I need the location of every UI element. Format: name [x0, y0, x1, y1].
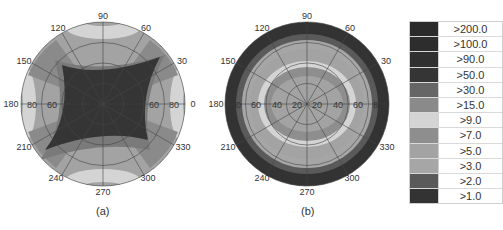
svg-text:150: 150 — [16, 56, 31, 66]
caption-b: (b) — [301, 205, 314, 217]
svg-text:90: 90 — [302, 11, 312, 21]
svg-text:40: 40 — [69, 100, 79, 110]
legend-item: >30.0 — [410, 83, 502, 98]
legend-label: >2.0 — [438, 174, 502, 188]
legend-label: >5.0 — [438, 144, 502, 158]
svg-text:60: 60 — [149, 100, 159, 110]
svg-text:150: 150 — [220, 56, 235, 66]
legend-label: >15.0 — [438, 98, 502, 112]
polar-plot-a: 90 60 30 0 330 300 270 240 210 180 150 1… — [0, 0, 200, 200]
legend-label: >7.0 — [438, 128, 502, 142]
legend-item: >15.0 — [410, 98, 502, 113]
svg-text:80: 80 — [169, 100, 179, 110]
svg-text:80: 80 — [231, 100, 241, 110]
legend-swatch — [410, 22, 438, 36]
svg-text:60: 60 — [47, 100, 57, 110]
legend-label: >90.0 — [438, 52, 502, 66]
caption-a: (a) — [96, 205, 109, 217]
svg-text:80: 80 — [373, 100, 383, 110]
legend-swatch — [410, 52, 438, 66]
svg-text:80: 80 — [27, 100, 37, 110]
legend-item: >7.0 — [410, 128, 502, 143]
legend-item: >5.0 — [410, 144, 502, 159]
svg-text:180: 180 — [208, 99, 223, 109]
svg-text:20: 20 — [292, 100, 302, 110]
svg-text:300: 300 — [344, 173, 359, 183]
svg-text:270: 270 — [95, 187, 110, 197]
legend-item: >100.0 — [410, 37, 502, 52]
legend-swatch — [410, 113, 438, 127]
legend-item: >9.0 — [410, 113, 502, 128]
legend-item: >50.0 — [410, 68, 502, 83]
svg-text:210: 210 — [220, 142, 235, 152]
svg-text:20: 20 — [88, 100, 98, 110]
legend-item: >1.0 — [410, 189, 502, 203]
polar-plot-b: 90 60 30 120 150 180 210 240 270 300 330… — [185, 0, 395, 200]
legend-swatch — [410, 144, 438, 158]
legend-swatch — [410, 128, 438, 142]
svg-text:30: 30 — [381, 56, 391, 66]
svg-text:120: 120 — [50, 23, 65, 33]
legend-item: >90.0 — [410, 52, 502, 67]
svg-text:330: 330 — [379, 142, 394, 152]
svg-text:90: 90 — [98, 11, 108, 21]
legend-label: >3.0 — [438, 159, 502, 173]
svg-text:270: 270 — [299, 187, 314, 197]
legend-label: >100.0 — [438, 37, 502, 51]
svg-text:20: 20 — [312, 100, 322, 110]
svg-text:120: 120 — [254, 23, 269, 33]
svg-text:60: 60 — [353, 100, 363, 110]
svg-text:60: 60 — [251, 100, 261, 110]
legend-swatch — [410, 98, 438, 112]
legend-swatch — [410, 83, 438, 97]
svg-text:40: 40 — [129, 100, 139, 110]
svg-text:240: 240 — [254, 173, 269, 183]
legend-item: >3.0 — [410, 159, 502, 174]
svg-text:40: 40 — [272, 100, 282, 110]
svg-text:40: 40 — [333, 100, 343, 110]
legend-item: >2.0 — [410, 174, 502, 189]
svg-text:300: 300 — [140, 173, 155, 183]
svg-text:60: 60 — [345, 23, 355, 33]
legend-swatch — [410, 174, 438, 188]
legend-swatch — [410, 159, 438, 173]
svg-text:60: 60 — [141, 23, 151, 33]
svg-text:180: 180 — [3, 99, 18, 109]
svg-text:210: 210 — [16, 142, 31, 152]
legend-label: >50.0 — [438, 68, 502, 82]
legend-label: >200.0 — [438, 22, 502, 36]
svg-text:240: 240 — [48, 173, 63, 183]
legend-swatch — [410, 189, 438, 203]
legend-swatch — [410, 37, 438, 51]
legend-label: >30.0 — [438, 83, 502, 97]
legend-swatch — [410, 68, 438, 82]
legend-item: >200.0 — [410, 22, 502, 37]
legend-label: >9.0 — [438, 113, 502, 127]
svg-text:20: 20 — [110, 100, 120, 110]
legend-label: >1.0 — [438, 189, 502, 203]
color-legend: >200.0 >100.0 >90.0 >50.0 >30.0 >15.0 >9… — [409, 21, 503, 204]
